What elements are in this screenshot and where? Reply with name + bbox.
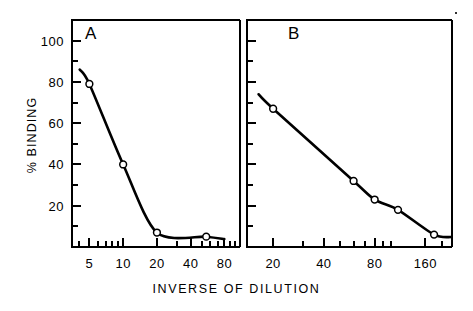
data-point-b-4	[431, 231, 438, 238]
figure-root: % BINDING INVERSE OF DILUTION A B 100806…	[0, 0, 473, 311]
data-curve-b	[259, 94, 452, 237]
series-layer	[80, 70, 452, 241]
data-point-b-0	[270, 105, 277, 112]
data-point-b-2	[371, 196, 378, 203]
data-point-b-3	[395, 206, 402, 213]
data-point-a-0	[86, 81, 93, 88]
data-point-a-2	[154, 229, 161, 236]
data-point-a-3	[203, 233, 210, 240]
data-point-a-1	[120, 161, 127, 168]
axes-layer	[71, 20, 452, 247]
data-curve-a	[80, 70, 225, 240]
plot-canvas	[0, 0, 473, 311]
data-point-b-1	[350, 178, 357, 185]
